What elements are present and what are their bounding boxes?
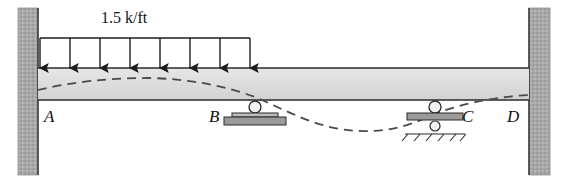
diagram-canvas: [0, 0, 576, 183]
beam-diagram: 1.5 k/ft A B C D: [0, 0, 576, 183]
support-b-roller: [224, 101, 286, 125]
distributed-load: [40, 38, 250, 68]
label-b: B: [209, 108, 219, 125]
label-c: C: [462, 108, 473, 125]
beam-member: [38, 68, 529, 100]
right-wall-support: [529, 8, 550, 175]
left-wall-support: [18, 8, 38, 175]
label-d: D: [507, 108, 519, 125]
support-c-roller-ground: [402, 101, 466, 141]
ground-hatching: [402, 134, 466, 141]
distributed-load-label: 1.5 k/ft: [101, 10, 147, 26]
label-a: A: [44, 108, 54, 125]
